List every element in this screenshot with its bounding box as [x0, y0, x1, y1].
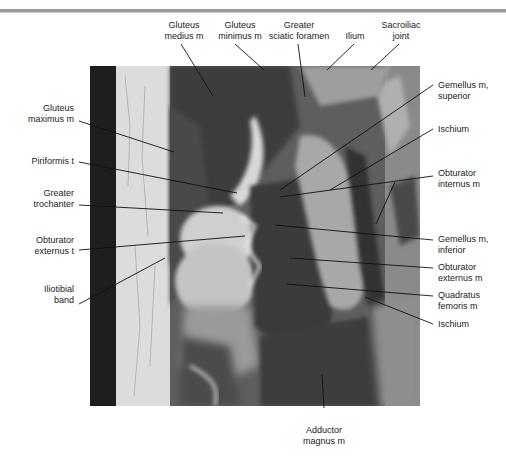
label-line: band [44, 295, 74, 306]
label-sacroiliac-joint: Sacroiliac joint [381, 20, 420, 42]
label-line: Ilium [345, 31, 364, 42]
label-line: internus m [438, 179, 480, 190]
label-line: Obturator [34, 235, 74, 246]
label-obturator-internus: Obturator internus m [438, 168, 480, 190]
label-line: superior [438, 91, 489, 102]
label-greater-sciatic-foramen: Greater sciatic foramen [269, 20, 330, 42]
label-gemellus-inferior: Gemellus m, inferior [438, 234, 489, 256]
label-line: Ischium [438, 124, 469, 135]
label-line: Greater [33, 188, 74, 199]
label-gemellus-superior: Gemellus m, superior [438, 80, 489, 102]
label-line: magnus m [303, 436, 345, 447]
label-line: Gluteus [218, 20, 262, 31]
label-line: inferior [438, 245, 489, 256]
label-iliotibial-band: Iliotibial band [44, 284, 74, 306]
label-line: maximus m [28, 114, 74, 125]
leader-lines [0, 0, 506, 464]
label-line: joint [381, 31, 420, 42]
label-gluteus-minimus: Gluteus minimus m [218, 20, 262, 42]
label-gluteus-medius: Gluteus medius m [164, 20, 203, 42]
label-line: Gemellus m, [438, 234, 489, 245]
label-quadratus-femoris: Quadratus femoris m [438, 290, 480, 312]
label-greater-trochanter: Greater trochanter [33, 188, 74, 210]
label-adductor-magnus: Adductor magnus m [303, 425, 345, 447]
label-ischium-lower: Ischium [438, 319, 469, 330]
label-line: trochanter [33, 199, 74, 210]
label-line: Obturator [438, 168, 480, 179]
label-line: externus m [438, 273, 483, 284]
label-piriformis-t: Piriformis t [32, 156, 75, 167]
label-line: Ischium [438, 319, 469, 330]
label-line: Greater [269, 20, 330, 31]
label-obturator-externus-m: Obturator externus m [438, 262, 483, 284]
label-line: femoris m [438, 301, 480, 312]
label-line: Sacroiliac [381, 20, 420, 31]
label-obturator-externus-t: Obturator externus t [34, 235, 74, 257]
label-line: externus t [34, 246, 74, 257]
label-line: sciatic foramen [269, 31, 330, 42]
label-line: Quadratus [438, 290, 480, 301]
label-line: Gluteus [28, 103, 74, 114]
label-ischium-upper: Ischium [438, 124, 469, 135]
label-ilium: Ilium [345, 31, 364, 42]
label-line: medius m [164, 31, 203, 42]
label-line: minimus m [218, 31, 262, 42]
label-line: Obturator [438, 262, 483, 273]
label-gluteus-maximus: Gluteus maximus m [28, 103, 74, 125]
label-line: Adductor [303, 425, 345, 436]
label-line: Piriformis t [32, 156, 75, 167]
label-line: Gemellus m, [438, 80, 489, 91]
label-line: Gluteus [164, 20, 203, 31]
label-line: Iliotibial [44, 284, 74, 295]
